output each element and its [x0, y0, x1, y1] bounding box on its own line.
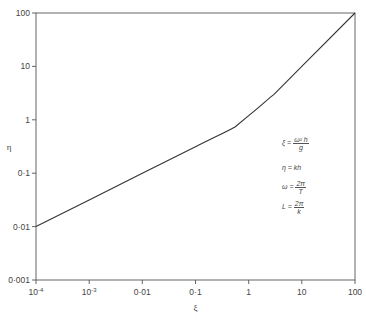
x-tick-label: 0·1	[189, 287, 202, 297]
formula-eta: η = kh	[282, 164, 301, 171]
x-tick-label: 10-4	[29, 287, 44, 297]
x-tick-label: 1	[246, 287, 251, 297]
x-tick-label: 10	[297, 287, 307, 297]
y-tick-label: 0·01	[13, 222, 30, 232]
y-tick-label: 1	[25, 115, 30, 125]
formula-xi: ξ = ω² hg	[282, 136, 309, 151]
x-axis	[36, 280, 355, 284]
x-tick-label: 0·01	[134, 287, 151, 297]
y-tick-label: 0·1	[18, 168, 31, 178]
formula-omega: ω = 2πT	[282, 180, 306, 195]
y-axis-title: η	[7, 142, 12, 152]
x-tick-label: 10-3	[82, 287, 97, 297]
x-tick-labels: 10-4 10-3 0·01 0·1 1 10 100	[29, 287, 363, 297]
formula-wavelength: L = 2πk	[282, 200, 304, 215]
data-curve	[36, 13, 355, 227]
chart-canvas: 0·001 0·01 0·1 1 10 100 10-4 10-3 0·01 0…	[0, 0, 366, 321]
y-tick-labels: 0·001 0·01 0·1 1 10 100	[8, 8, 30, 285]
y-tick-label: 100	[16, 8, 30, 18]
x-axis-title: ξ	[193, 303, 197, 313]
y-axis	[32, 13, 36, 280]
x-tick-label: 100	[348, 287, 362, 297]
y-tick-label: 0·001	[8, 275, 30, 285]
y-tick-label: 10	[21, 61, 31, 71]
